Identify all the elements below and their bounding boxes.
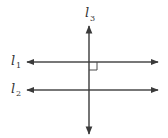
svg-text:l: l bbox=[11, 53, 15, 68]
diagram-canvas: l 3 l 1 l 2 bbox=[0, 0, 168, 138]
svg-text:3: 3 bbox=[90, 14, 95, 23]
svg-text:2: 2 bbox=[16, 89, 21, 98]
label-l3: l 3 bbox=[85, 5, 95, 23]
right-angle-mark bbox=[89, 62, 97, 70]
label-l1: l 1 bbox=[11, 53, 21, 70]
svg-text:1: 1 bbox=[16, 61, 21, 70]
svg-text:l: l bbox=[11, 81, 15, 96]
svg-text:l: l bbox=[85, 5, 89, 20]
label-l2: l 2 bbox=[11, 81, 21, 98]
